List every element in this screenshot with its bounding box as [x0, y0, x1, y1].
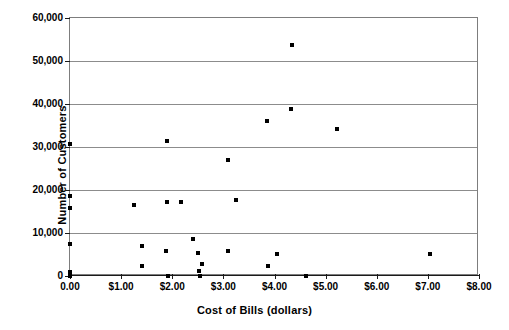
gridline — [70, 61, 477, 62]
y-tick-label: 50,000 — [32, 56, 63, 66]
data-point — [191, 237, 195, 241]
data-point — [335, 127, 339, 131]
data-point — [200, 262, 204, 266]
x-tick-mark — [479, 274, 480, 279]
data-point — [140, 244, 144, 248]
y-tick-mark — [65, 190, 70, 191]
x-tick-mark — [326, 274, 327, 279]
data-point — [428, 252, 432, 256]
x-tick-mark — [172, 274, 173, 279]
y-tick-mark — [65, 61, 70, 62]
data-point — [226, 158, 230, 162]
data-point — [165, 200, 169, 204]
data-point — [289, 107, 293, 111]
x-tick-mark — [223, 274, 224, 279]
data-point — [68, 194, 72, 198]
data-point — [68, 206, 72, 210]
y-tick-label: 0 — [57, 271, 63, 281]
gridline — [70, 233, 477, 234]
data-point — [166, 274, 170, 278]
data-point — [275, 252, 279, 256]
data-point — [68, 142, 72, 146]
data-point — [68, 242, 72, 246]
x-axis-title: Cost of Bills (dollars) — [0, 304, 509, 316]
y-tick-label: 30,000 — [32, 142, 63, 152]
x-tick-label: $8.00 — [466, 282, 491, 292]
x-tick-label: $6.00 — [364, 282, 389, 292]
y-tick-label: 60,000 — [32, 13, 63, 23]
gridline — [70, 104, 477, 105]
gridline — [70, 147, 477, 148]
data-point — [290, 43, 294, 47]
data-point — [197, 269, 201, 273]
y-axis-title: Number of Customers — [56, 105, 68, 224]
data-point — [164, 249, 168, 253]
data-point — [234, 198, 238, 202]
data-point — [265, 119, 269, 123]
data-point — [140, 264, 144, 268]
x-tick-label: $3.00 — [211, 282, 236, 292]
x-tick-label: $1.00 — [109, 282, 134, 292]
data-point — [68, 274, 72, 278]
x-tick-label: $4.00 — [262, 282, 287, 292]
data-point — [179, 200, 183, 204]
gridline — [70, 190, 477, 191]
data-point — [304, 274, 308, 278]
scatter-chart-figure: Number of Customers 010,00020,00030,0004… — [0, 0, 509, 330]
y-tick-mark — [65, 104, 70, 105]
x-tick-mark — [428, 274, 429, 279]
y-tick-mark — [65, 18, 70, 19]
x-tick-mark — [377, 274, 378, 279]
y-tick-mark — [65, 233, 70, 234]
x-tick-label: $5.00 — [313, 282, 338, 292]
y-tick-label: 20,000 — [32, 185, 63, 195]
y-tick-label: 40,000 — [32, 99, 63, 109]
plot-area: 010,00020,00030,00040,00050,00060,000 0.… — [69, 17, 478, 275]
x-tick-mark — [121, 274, 122, 279]
x-tick-label: $2.00 — [160, 282, 185, 292]
x-tick-label: $7.00 — [415, 282, 440, 292]
data-point — [132, 203, 136, 207]
data-point — [165, 139, 169, 143]
y-tick-mark — [65, 147, 70, 148]
y-tick-label: 10,000 — [32, 228, 63, 238]
x-tick-mark — [275, 274, 276, 279]
data-point — [226, 249, 230, 253]
data-point — [198, 274, 202, 278]
x-tick-label: 0.00 — [60, 282, 79, 292]
data-point — [196, 251, 200, 255]
data-point — [266, 264, 270, 268]
